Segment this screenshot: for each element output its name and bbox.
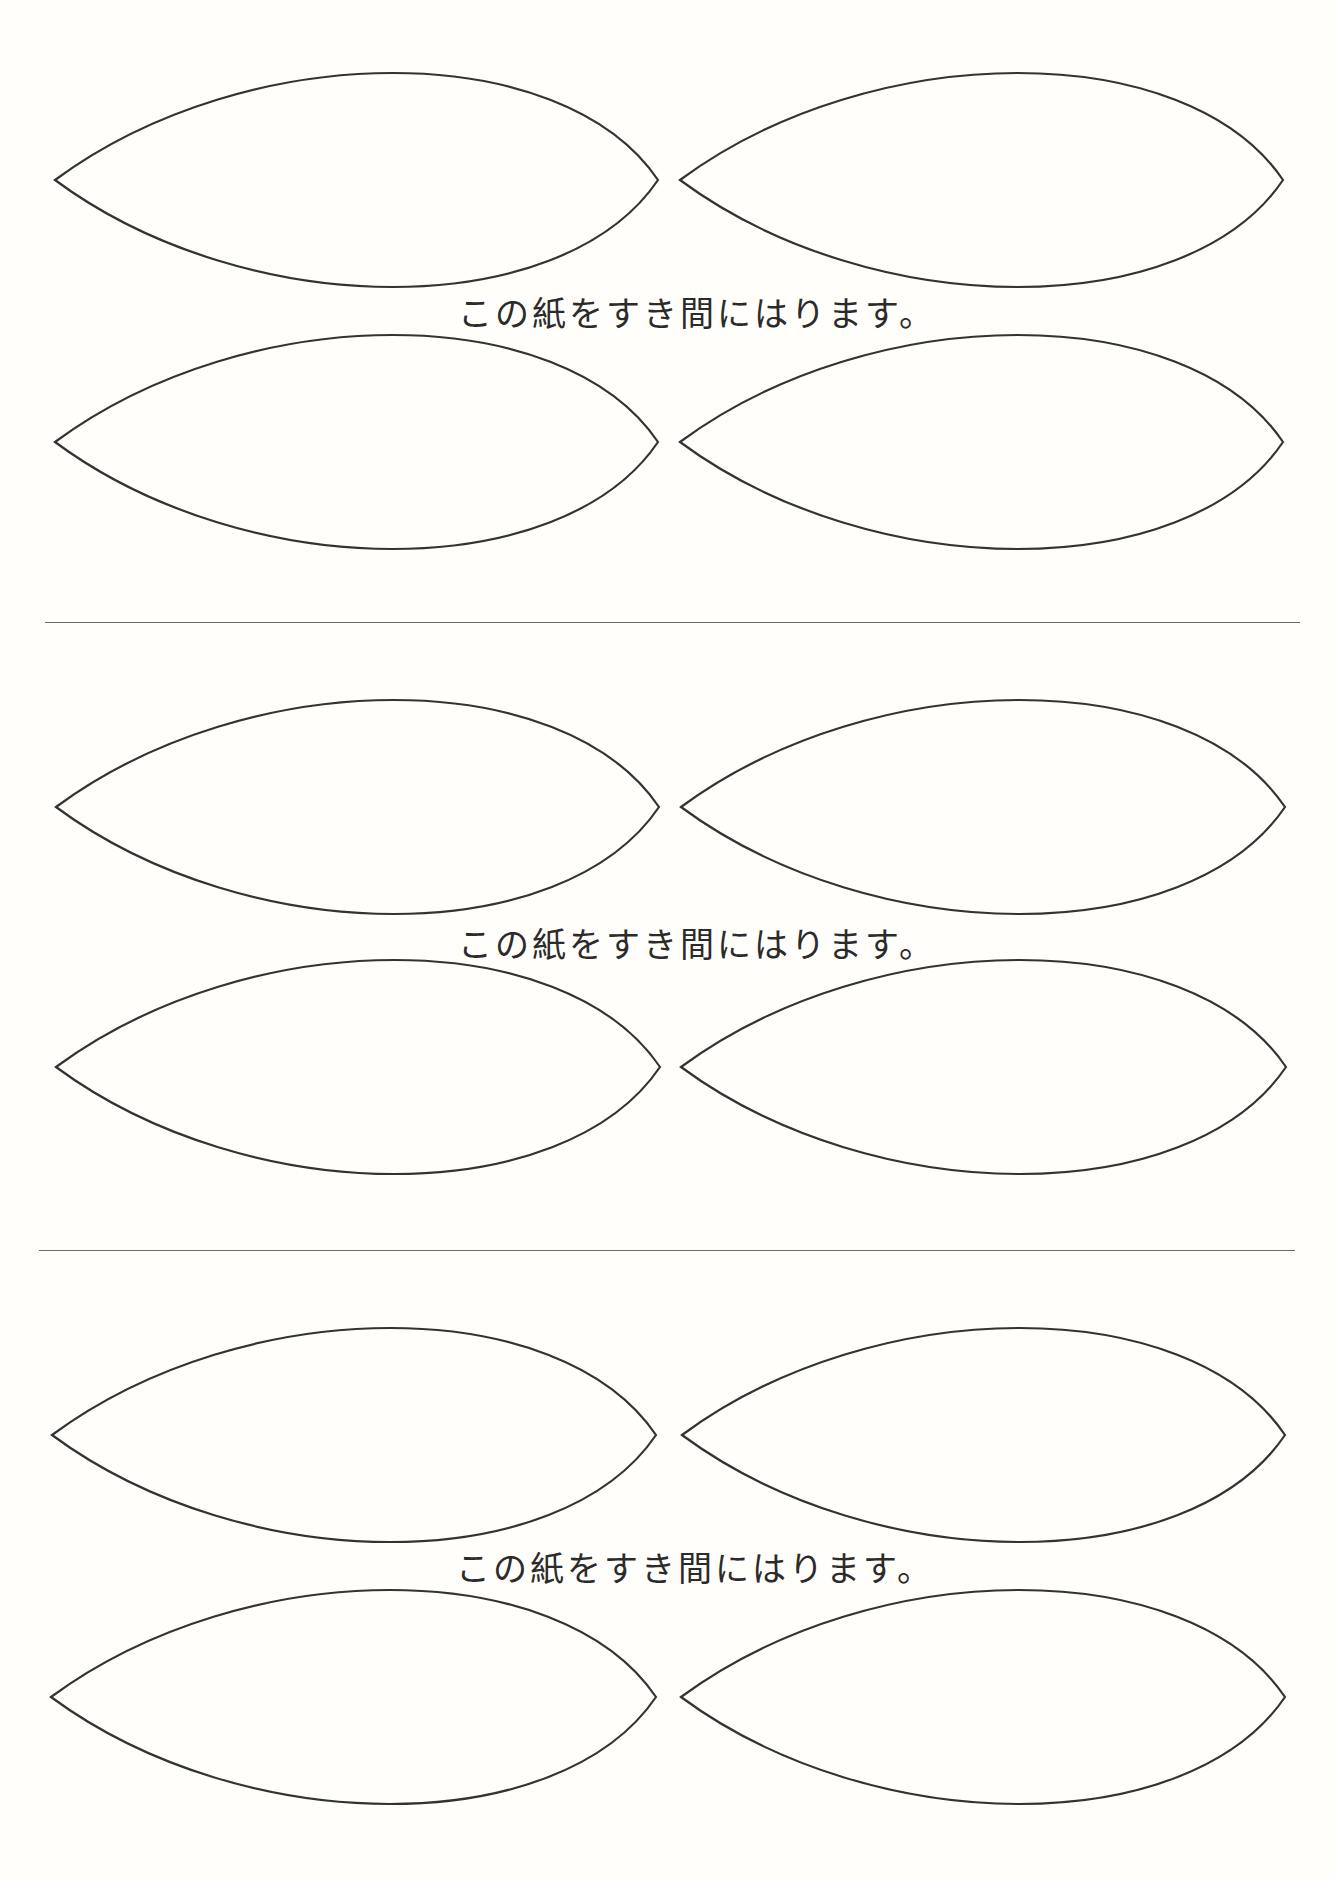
leaf-outline xyxy=(680,73,1283,287)
section-1-caption: この紙をすき間にはります。 xyxy=(458,296,936,332)
leaf-outline xyxy=(55,335,658,549)
cut-line-divider-1 xyxy=(45,622,1300,623)
leaf-outline xyxy=(682,1328,1285,1542)
leaf-outline xyxy=(56,700,659,914)
section-3-caption: この紙をすき間にはります。 xyxy=(456,1551,934,1587)
leaf-outline xyxy=(56,960,660,1174)
leaf-outline xyxy=(681,700,1285,914)
leaf-outline xyxy=(681,1590,1285,1804)
leaf-outline xyxy=(55,73,658,287)
cut-out-template-sheet: この紙をすき間にはります。 この紙をすき間にはります。 この紙をすき間にはります… xyxy=(0,0,1334,1882)
leaf-outline xyxy=(681,960,1286,1174)
leaf-outline xyxy=(51,1590,656,1804)
leaf-outline xyxy=(52,1328,656,1542)
section-2-caption: この紙をすき間にはります。 xyxy=(458,927,936,963)
cut-line-divider-2 xyxy=(39,1250,1295,1251)
leaf-outline xyxy=(680,335,1283,549)
